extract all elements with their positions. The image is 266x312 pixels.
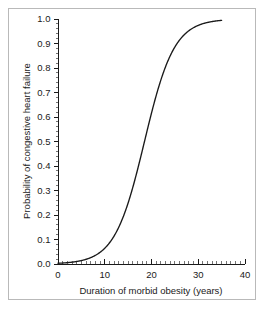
y-tick-label: 0.9 <box>37 38 50 49</box>
y-axis-major-ticks <box>54 19 59 264</box>
chart-plot: 0.00.10.20.30.40.50.60.70.80.91.0 010203… <box>0 0 266 312</box>
x-axis-title: Duration of morbid obesity (years) <box>79 285 222 296</box>
x-tick-label: 10 <box>99 269 110 280</box>
y-tick-label: 0.1 <box>37 234 50 245</box>
y-tick-label: 0.0 <box>37 258 50 269</box>
y-axis-title: Probability of congestive heart failure <box>21 63 32 219</box>
x-tick-label: 20 <box>146 269 157 280</box>
y-axis-tick-labels: 0.00.10.20.30.40.50.60.70.80.91.0 <box>37 13 50 269</box>
x-axis-tick-labels: 010203040 <box>55 269 250 280</box>
x-tick-label: 0 <box>55 269 60 280</box>
y-tick-label: 0.8 <box>37 62 50 73</box>
y-tick-label: 0.7 <box>37 87 50 98</box>
y-tick-label: 0.4 <box>37 160 50 171</box>
x-tick-label: 40 <box>240 269 251 280</box>
y-tick-label: 1.0 <box>37 13 50 24</box>
y-tick-label: 0.5 <box>37 136 50 147</box>
y-tick-label: 0.3 <box>37 185 50 196</box>
figure-container: 0.00.10.20.30.40.50.60.70.80.91.0 010203… <box>0 0 266 312</box>
data-series-line <box>58 20 222 263</box>
y-tick-label: 0.2 <box>37 209 50 220</box>
y-tick-label: 0.6 <box>37 111 50 122</box>
x-tick-label: 30 <box>193 269 204 280</box>
